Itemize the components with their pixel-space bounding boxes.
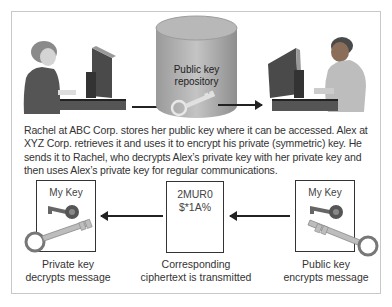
repository-label-line1: Public key <box>155 64 238 76</box>
ciphertext-label-line1: Corresponding <box>140 258 252 271</box>
public-key-icons <box>300 196 382 258</box>
small-key-icon <box>310 205 343 219</box>
public-key-label-line2: encrypts message <box>280 271 372 284</box>
ciphertext-label-line2: ciphertext is transmitted <box>136 271 256 284</box>
arrow-left-to-ciphertext <box>230 215 290 217</box>
small-key-icon <box>48 205 79 219</box>
large-key-icon <box>26 219 92 251</box>
repository-label-line2: repository <box>155 76 238 88</box>
public-key-label-line1: Public key <box>280 258 372 271</box>
diagram-caption: Rachel at ABC Corp. stores her public ke… <box>24 124 374 178</box>
person-man-computer-icon <box>262 36 374 114</box>
ciphertext-line1: 2MUR0 <box>167 188 223 200</box>
large-key-icon <box>308 220 377 255</box>
ciphertext-line2: $*1A% <box>167 201 223 213</box>
arrow-right-to-alex <box>218 104 262 106</box>
private-key-icons <box>22 196 100 254</box>
person-woman-computer-icon <box>20 38 130 114</box>
private-key-label-line2: decrypts message <box>22 271 114 284</box>
arrow-left-to-private-key <box>101 215 163 217</box>
private-key-label-line1: Private key <box>22 258 114 271</box>
ciphertext-box: 2MUR0 $*1A% <box>166 181 224 253</box>
